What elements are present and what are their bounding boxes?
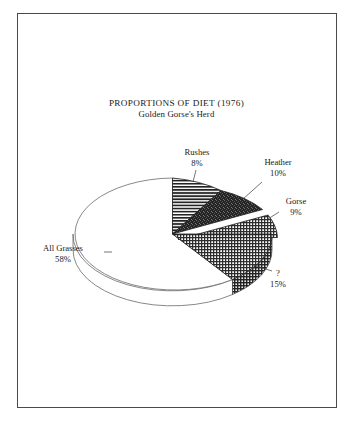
slice-label-gorse-percent: 9% bbox=[270, 207, 322, 218]
slice-label-all-grasses-percent: 58% bbox=[22, 254, 104, 265]
leader-line-heather bbox=[243, 182, 262, 199]
slice-label-all-grasses-name: All Grasses bbox=[22, 243, 104, 254]
slice-label-unknown-name: ? bbox=[254, 268, 302, 279]
slice-label-heather-name: Heather bbox=[248, 157, 308, 168]
slice-label-heather-percent: 10% bbox=[248, 168, 308, 179]
slice-label-gorse-name: Gorse bbox=[270, 196, 322, 207]
slice-label-unknown-percent: 15% bbox=[254, 279, 302, 290]
leader-line-rushes bbox=[193, 170, 196, 182]
slice-label-heather: Heather 10% bbox=[248, 157, 308, 179]
slice-label-gorse: Gorse 9% bbox=[270, 196, 322, 218]
slice-label-rushes: Rushes 8% bbox=[166, 147, 228, 169]
slice-label-all-grasses: All Grasses 58% bbox=[22, 243, 104, 265]
slice-label-rushes-percent: 8% bbox=[166, 158, 228, 169]
slice-label-unknown: ? 15% bbox=[254, 268, 302, 290]
slice-label-rushes-name: Rushes bbox=[166, 147, 228, 158]
figure-page: PROPORTIONS OF DIET (1976) Golden Gorse'… bbox=[0, 0, 353, 431]
